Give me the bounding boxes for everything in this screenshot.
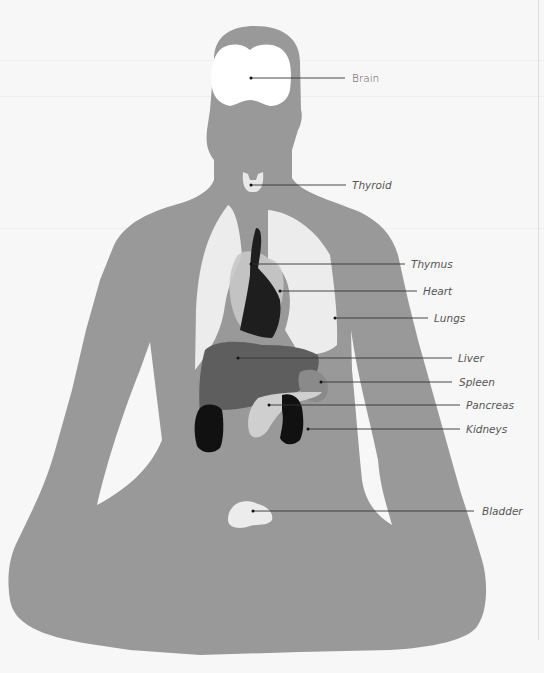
label-brain: Brain: [352, 72, 379, 84]
head-shape: [8, 26, 486, 655]
label-spleen: Spleen: [459, 376, 495, 388]
label-kidneys: Kidneys: [466, 423, 507, 435]
label-pancreas: Pancreas: [466, 399, 514, 411]
label-thyroid: Thyroid: [352, 179, 392, 191]
brain-organ: [211, 44, 291, 106]
label-thymus: Thymus: [411, 258, 453, 270]
silhouette: [8, 26, 486, 655]
left-kidney: [195, 404, 224, 452]
label-liver: Liver: [458, 352, 484, 364]
label-bladder: Bladder: [482, 505, 523, 517]
label-lungs: Lungs: [434, 312, 465, 324]
floor-gap: [0, 660, 544, 673]
label-heart: Heart: [423, 285, 452, 297]
body-illustration: [0, 0, 544, 673]
organ-diagram: Brain Thyroid Thymus Heart Lungs Liver S…: [0, 0, 544, 673]
